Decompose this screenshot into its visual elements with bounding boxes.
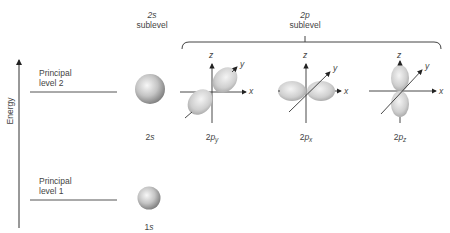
sublevel-2s-subtitle: sublevel [127,20,177,30]
axis-z-label-pz: z [397,50,401,60]
orbital-2py-label: 2py [197,132,227,145]
axis-y-label-px: y [333,63,337,73]
orbital-2pz-subscript: z [403,136,406,143]
axis-x-label-px: x [344,86,348,96]
orbital-2s-letter: s [150,132,154,142]
orbital-1s-letter: s [149,222,153,232]
sublevel-2s-title: 2s [127,10,177,20]
principal-level-2-line2: level 2 [39,78,72,88]
principal-level-2-line1: Principal [39,68,72,78]
principal-level-1-line2: level 1 [39,186,72,196]
axis-z-label-px: z [303,50,307,60]
axis-y-label-pz: y [425,61,429,71]
sublevel-2p-subtitle: sublevel [280,20,330,30]
orbital-diagram [0,0,450,233]
orbital-2s-sphere [135,74,165,104]
axis-x-label-py: x [249,86,253,96]
orbital-2py [180,62,246,123]
axis-x-label-pz: x [439,86,443,96]
sublevel-2p-header: 2p sublevel [280,10,330,30]
principal-level-1-label: Principal level 1 [39,176,72,196]
energy-label: Energy [5,93,15,129]
orbital-2py-subscript: y [215,136,218,143]
orbital-2s-label: 2s [135,132,165,142]
principal-level-2-label: Principal level 2 [39,68,72,88]
axis-z-label-py: z [209,50,213,60]
orbital-1s-label: 1s [134,222,164,232]
orbital-2px-label: 2px [291,132,321,145]
orbital-2pz-label: 2pz [385,132,415,145]
axis-y-label-py: y [240,59,244,69]
2p-bracket [182,36,441,49]
orbital-2px [278,64,341,123]
sublevel-2s-header: 2s sublevel [127,10,177,30]
principal-level-1-line1: Principal [39,176,72,186]
sublevel-2p-title: 2p [280,10,330,20]
orbital-1s-sphere [138,187,161,210]
orbital-2px-subscript: x [309,136,312,143]
